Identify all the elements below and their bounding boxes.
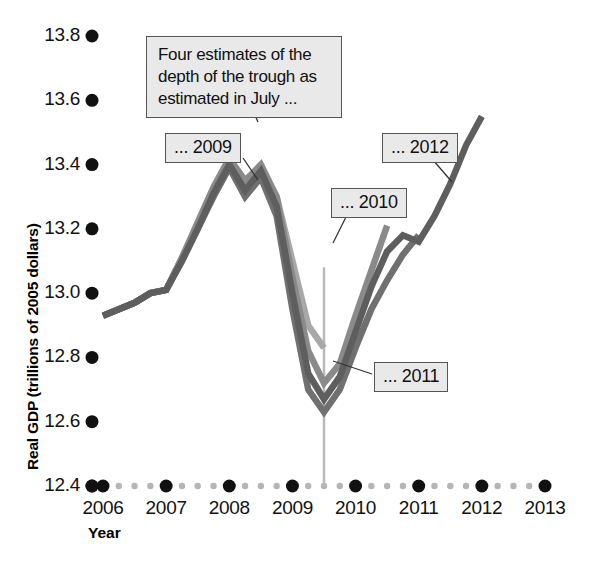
x-axis-quarter-dot [116,483,122,489]
x-axis-quarter-dot [195,483,201,489]
y-axis-dot [86,480,99,493]
y-tick-label: 13.2 [22,217,80,239]
leader-line-2012 [433,160,452,182]
x-axis-quarter-dot [242,483,248,489]
x-tick-label: 2013 [514,497,576,519]
y-axis-dot [86,30,99,43]
note-line-2: depth of the trough as [158,66,331,88]
x-axis-year-dot [412,480,425,493]
x-axis-year-dot [475,480,488,493]
x-axis-quarter-dot [384,483,390,489]
x-axis-quarter-dot [368,483,374,489]
leader-line-2010 [333,215,347,243]
x-axis-year-dot [223,480,236,493]
y-axis-dot [86,222,99,235]
y-axis-dot [86,351,99,364]
x-axis-quarter-dot [431,483,437,489]
y-axis-dot [86,158,99,171]
y-axis-dot [86,287,99,300]
x-axis-quarter-dot [463,483,469,489]
y-tick-label: 12.4 [22,474,80,496]
x-tick-label: 2007 [135,497,197,519]
callout-2011: ... 2011 [374,362,448,392]
x-axis-quarter-dot [258,483,264,489]
y-tick-label: 12.6 [22,410,80,432]
x-axis-year-dot [160,480,173,493]
y-tick-label: 13.6 [22,88,80,110]
y-axis-dot-column [86,30,99,493]
x-axis-quarter-dot [510,483,516,489]
callout-2012: ... 2012 [382,133,458,163]
x-axis-year-dot [286,480,299,493]
x-axis-quarter-dot [147,483,153,489]
x-axis-title: Year [88,524,121,542]
y-tick-label: 13.4 [22,153,80,175]
x-tick-label: 2010 [325,497,387,519]
axis-dot-row [86,480,552,493]
x-tick-label: 2008 [198,497,260,519]
x-axis-quarter-dot [400,483,406,489]
x-axis-quarter-dot [447,483,453,489]
note-line-3: estimated in July ... [158,88,331,110]
x-axis-year-dot [349,480,362,493]
trough-note-box: Four estimates of the depth of the troug… [146,36,342,118]
y-tick-label: 13.8 [22,24,80,46]
gdp-revision-chart: Real GDP (trillions of 2005 dollars) Yea… [0,0,592,568]
x-axis-quarter-dot [179,483,185,489]
x-axis-quarter-dot [273,483,279,489]
y-axis-dot [86,415,99,428]
x-axis-quarter-dot [526,483,532,489]
y-tick-label: 12.8 [22,345,80,367]
x-axis-quarter-dot [494,483,500,489]
x-axis-year-dot [539,480,552,493]
callout-2009: ... 2009 [165,133,241,163]
x-axis-quarter-dot [210,483,216,489]
x-tick-label: 2009 [261,497,323,519]
y-tick-label: 13.0 [22,281,80,303]
callout-2010: ... 2010 [331,188,407,218]
x-tick-label: 2012 [451,497,513,519]
x-axis-quarter-dot [305,483,311,489]
x-tick-label: 2006 [72,497,134,519]
x-axis-quarter-dot [337,483,343,489]
note-line-1: Four estimates of the [158,44,331,66]
x-axis-quarter-dot [131,483,137,489]
y-axis-dot [86,94,99,107]
x-tick-label: 2011 [388,497,450,519]
